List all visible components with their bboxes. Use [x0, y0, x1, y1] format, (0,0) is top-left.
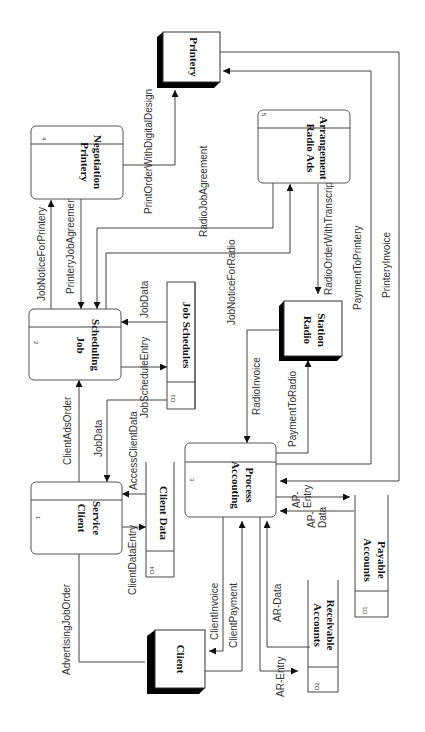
- store-title: Client Data: [158, 486, 170, 541]
- label-client-data-entry: ClientDataEntry: [127, 525, 138, 595]
- entity-title: Client: [175, 645, 187, 674]
- store-accounts-receivable[interactable]: D2 Accounts Receivable: [308, 580, 338, 692]
- label-client-invoice: ClientInvoice: [209, 582, 220, 640]
- label-ap-data-1: AP-: [306, 511, 317, 528]
- entity-title: Printery: [188, 37, 200, 77]
- process-title: Scheduling: [90, 319, 102, 371]
- label-radio-order-with-transcript: RadioOrderWithTranscript: [323, 179, 334, 295]
- process-title: Job: [75, 336, 87, 353]
- process-title: Client: [76, 504, 88, 533]
- label-printery-invoice: PrinteryInvoice: [381, 231, 392, 298]
- process-client-service[interactable]: 1 Client Service: [31, 482, 122, 554]
- label-access-client-data: AccessClientData: [128, 411, 139, 490]
- entity-title: Station: [316, 313, 328, 347]
- label-print-order-with-digital-design: PrintOrderWithDigitalDesign: [143, 89, 154, 214]
- label-radio-invoice: RadioInvoice: [251, 357, 262, 415]
- process-title: Service: [91, 501, 103, 535]
- label-job-schedule-entry: JobScheduleEntry: [139, 337, 150, 418]
- label-job-notice-for-printery: JobNoticeForPrintery: [36, 207, 47, 301]
- process-title: Negotiation: [92, 135, 104, 189]
- label-ap-entry-1: AP-: [291, 491, 302, 508]
- store-title: Job Schedules: [181, 302, 193, 369]
- label-payment-to-radio: PaymentToRadio: [287, 370, 298, 447]
- store-title: Accounts: [362, 538, 374, 582]
- label-job-notice-for-radio: JobNoticeForRadio: [226, 239, 237, 325]
- label-advertising-job-order: AdvertisingJobOrder: [61, 583, 72, 675]
- data-flow-diagram: AdvertisingJobOrder ClientDataEntry Acce…: [0, 0, 425, 732]
- process-title: Arrangement: [318, 116, 330, 180]
- store-id: D3: [170, 394, 176, 402]
- process-printery-negotiation[interactable]: 4 Printery Negotiation: [31, 126, 123, 199]
- process-job-scheduling[interactable]: 2 Job Scheduling: [29, 309, 121, 380]
- process-title: Process: [244, 467, 256, 503]
- entity-radio-station[interactable]: Radio Station: [279, 301, 342, 361]
- process-radio-ads-arrangement[interactable]: 5 Radio Ads Arrangement: [258, 110, 350, 183]
- label-printery-job-agreement: PrinteryJobAgreement: [65, 194, 76, 294]
- store-id: D2: [314, 682, 320, 690]
- label-ap-entry-2: Entry: [302, 485, 313, 508]
- entity-printery[interactable]: Printery: [157, 32, 220, 88]
- label-client-payment: ClientPayment: [228, 583, 239, 648]
- store-id: D1: [362, 606, 368, 614]
- store-accounts-payable[interactable]: D1 Accounts Payable: [355, 495, 388, 617]
- label-job-data-to-client: JobData: [93, 419, 104, 457]
- flow-radio-job-agreement: [97, 183, 273, 309]
- entity-client[interactable]: Client: [147, 630, 205, 694]
- process-title: Printery: [79, 142, 91, 182]
- label-job-data-to-scheduling: JobData: [139, 280, 150, 318]
- label-ar-data: AR-Data: [272, 583, 283, 622]
- label-radio-job-agreement: RadioJobAgreement: [198, 146, 209, 237]
- store-client-data[interactable]: D4 Client Data: [146, 462, 174, 577]
- label-client-ads-order: ClientAdsOrder: [62, 396, 73, 465]
- label-ar-entry: AR-Entry: [275, 656, 286, 697]
- store-title: Payable: [376, 541, 388, 578]
- process-accounting[interactable]: 3 Accouting Process: [185, 443, 276, 517]
- label-payment-to-printery: PaymentToPrintery: [352, 226, 363, 310]
- process-title: Radio Ads: [305, 124, 317, 173]
- entity-title: Radio: [302, 316, 314, 345]
- store-title: Accounts: [312, 603, 324, 647]
- process-title: Accouting: [230, 461, 242, 509]
- store-title: Receivable: [325, 600, 337, 651]
- store-id: D4: [149, 566, 155, 574]
- label-ap-data-2: Data: [317, 506, 328, 528]
- store-job-schedules[interactable]: D3 Job Schedules: [167, 282, 195, 409]
